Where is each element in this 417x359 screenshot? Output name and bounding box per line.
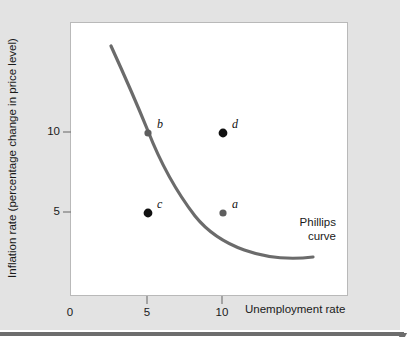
y-axis-title: Inflation rate (percentage change in pri…	[6, 8, 18, 308]
x-axis-tick-label-10: 10	[211, 306, 233, 318]
y-axis-tick-label-5: 5	[38, 205, 60, 217]
y-axis-tick-label-10: 10	[38, 125, 60, 137]
x-axis-tick-label-5: 5	[136, 306, 158, 318]
bottom-divider	[0, 332, 404, 336]
figure-panel: b d c a Phillips curve 10 5 0 5 10 Infla…	[0, 0, 400, 330]
axis-ticks-layer	[0, 0, 400, 330]
x-axis-tick-label-0: 0	[59, 306, 81, 318]
x-axis-title: Unemployment rate	[245, 303, 345, 315]
